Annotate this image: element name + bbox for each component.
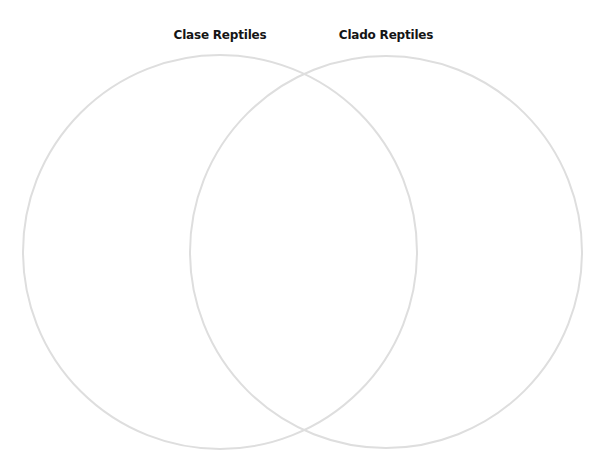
set-circle-clado-reptiles — [190, 56, 582, 448]
set-label-clase-reptiles: Clase Reptiles — [174, 26, 267, 44]
venn-circles — [0, 0, 610, 472]
set-label-clado-reptiles: Clado Reptiles — [339, 26, 433, 44]
set-circle-clase-reptiles — [23, 55, 417, 449]
venn-diagram: Clase Reptiles Clado Reptiles — [0, 0, 610, 472]
